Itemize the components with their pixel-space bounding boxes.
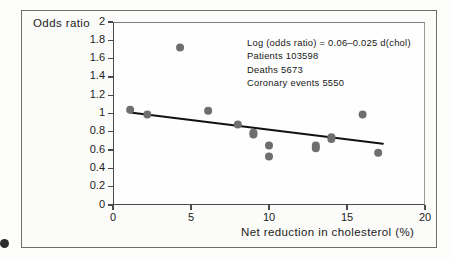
scatter-point <box>265 142 273 150</box>
annotation-line: Patients 103598 <box>247 49 411 62</box>
y-axis-tick-label: 2 <box>65 15 105 27</box>
x-axis-tick-label: 5 <box>176 211 206 223</box>
x-axis-tick-mark <box>424 205 425 210</box>
x-axis-tick-mark <box>112 205 113 210</box>
x-axis-tick-mark <box>346 205 347 210</box>
x-axis-tick-mark <box>268 205 269 210</box>
x-axis-tick-label: 15 <box>332 211 362 223</box>
y-axis-tick-label: 1.8 <box>65 33 105 45</box>
scatter-point <box>327 135 335 143</box>
y-axis-tick-label: 0.8 <box>65 124 105 136</box>
y-axis-tick-label: 0.4 <box>65 161 105 173</box>
y-axis-tick-label: 0.6 <box>65 143 105 155</box>
figure-root: Odds ratio 00.20.40.60.811.21.41.61.82 0… <box>0 0 452 259</box>
y-axis-tick-label: 1 <box>65 106 105 118</box>
y-axis-tick-label: 1.6 <box>65 51 105 63</box>
annotation-line: Deaths 5673 <box>247 63 411 76</box>
y-axis-tick-label: 1.2 <box>65 88 105 100</box>
scatter-point <box>265 153 273 161</box>
y-axis-tick-label: 1.4 <box>65 69 105 81</box>
scatter-point <box>143 110 151 118</box>
page-edge-ink-mark <box>0 239 9 248</box>
x-axis-tick-label: 0 <box>98 211 128 223</box>
y-axis-tick-label: 0 <box>65 198 105 210</box>
x-axis-tick-label: 10 <box>254 211 284 223</box>
regression-fit-line <box>130 113 383 144</box>
x-axis-tick-label: 20 <box>410 211 440 223</box>
scatter-point <box>176 44 184 52</box>
scatter-point <box>126 106 134 114</box>
y-axis-tick-label: 0.2 <box>65 179 105 191</box>
x-axis-title: Net reduction in cholesterol (%) <box>241 226 414 238</box>
annotation-line: Log (odds ratio) = 0.06–0.025 d(chol) <box>247 36 411 49</box>
annotation-line: Coronary events 5550 <box>247 76 411 89</box>
scatter-point <box>374 149 382 157</box>
scatter-point <box>249 131 257 139</box>
scatter-point <box>359 110 367 118</box>
x-axis-tick-mark <box>190 205 191 210</box>
scatter-point <box>204 107 212 115</box>
chart-annotation-text: Log (odds ratio) = 0.06–0.025 d(chol)Pat… <box>247 36 411 90</box>
scatter-point <box>312 144 320 152</box>
scatter-point <box>234 120 242 128</box>
